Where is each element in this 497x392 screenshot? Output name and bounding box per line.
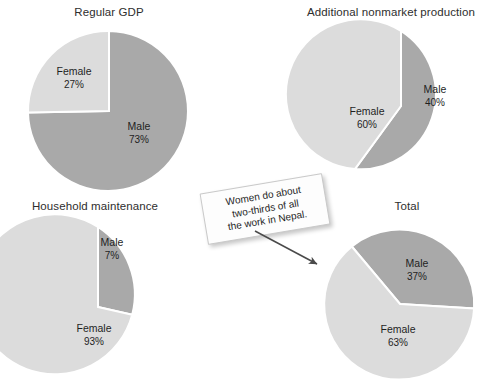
chart-panel-additional-nonmarket-production: Additional nonmarket production Male 40%… bbox=[286, 6, 496, 194]
pie-household-maintenance: Male 7% Female 93% bbox=[10, 222, 186, 388]
chart-panel-regular-gdp: Regular GDP Male 73% Female 27% bbox=[4, 6, 214, 194]
chart-panel-household-maintenance: Household maintenance Male 7% Female 93% bbox=[4, 200, 214, 390]
pie-slice-female[interactable] bbox=[28, 31, 109, 112]
callout-arrow-icon bbox=[250, 228, 340, 283]
callout-arrow-line bbox=[255, 231, 317, 264]
pie-slice-male[interactable] bbox=[98, 227, 135, 315]
pie-slices-total bbox=[324, 230, 474, 380]
chart-title-additional-nonmarket-production: Additional nonmarket production bbox=[286, 6, 496, 18]
pie-chart-figure: Regular GDP Male 73% Female 27% Addition… bbox=[0, 0, 497, 392]
pie-regular-gdp: Male 73% Female 27% bbox=[17, 28, 201, 194]
chart-title-household-maintenance: Household maintenance bbox=[0, 200, 200, 212]
pie-svg-household-maintenance bbox=[10, 222, 186, 388]
pie-slices-household-maintenance bbox=[0, 214, 135, 374]
chart-title-total: Total bbox=[302, 200, 497, 212]
pie-additional-nonmarket-production: Male 40% Female 60% bbox=[322, 28, 482, 188]
pie-svg-total bbox=[322, 224, 482, 384]
pie-slices-regular-gdp bbox=[28, 31, 188, 191]
pie-svg-additional-nonmarket-production bbox=[322, 28, 482, 188]
pie-total: Male 37% Female 63% bbox=[322, 224, 482, 384]
chart-title-regular-gdp: Regular GDP bbox=[4, 6, 214, 18]
pie-slices-additional-nonmarket-production bbox=[286, 19, 436, 169]
pie-svg-regular-gdp bbox=[17, 28, 201, 194]
